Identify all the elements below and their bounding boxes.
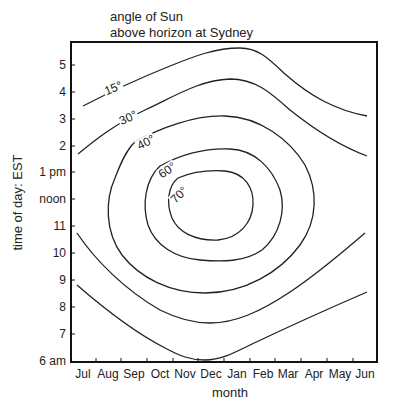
y-tick-label: 4: [6, 85, 66, 99]
y-tick-label: 8: [6, 300, 66, 314]
contour-30-lower: [77, 233, 365, 323]
y-axis-label: time of day: EST: [10, 128, 25, 278]
y-tick-label: 5: [6, 58, 66, 72]
y-tick-label: 7: [6, 327, 66, 341]
x-tick-label: Jun: [350, 367, 380, 381]
x-axis-label: month: [200, 385, 260, 400]
contour-70: [169, 171, 253, 240]
y-tick-label: 6 am: [6, 354, 66, 368]
y-tick-label: 3: [6, 112, 66, 126]
contour-15-upper: [83, 48, 367, 116]
